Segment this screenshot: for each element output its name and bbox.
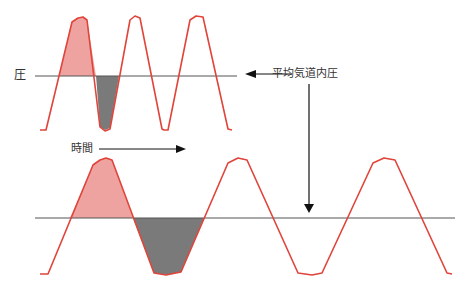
vertical-pointer-arrow — [304, 84, 314, 213]
bottom-waveform-panel — [35, 158, 455, 275]
top-waveform-panel — [35, 16, 237, 131]
pressure-axis-label: 圧 — [14, 69, 26, 81]
time-label: 時間 — [71, 143, 93, 154]
mean-airway-pressure-label: 平均気道内圧 — [272, 68, 338, 79]
time-arrow — [99, 145, 186, 153]
bottom-positive-area — [70, 158, 133, 218]
